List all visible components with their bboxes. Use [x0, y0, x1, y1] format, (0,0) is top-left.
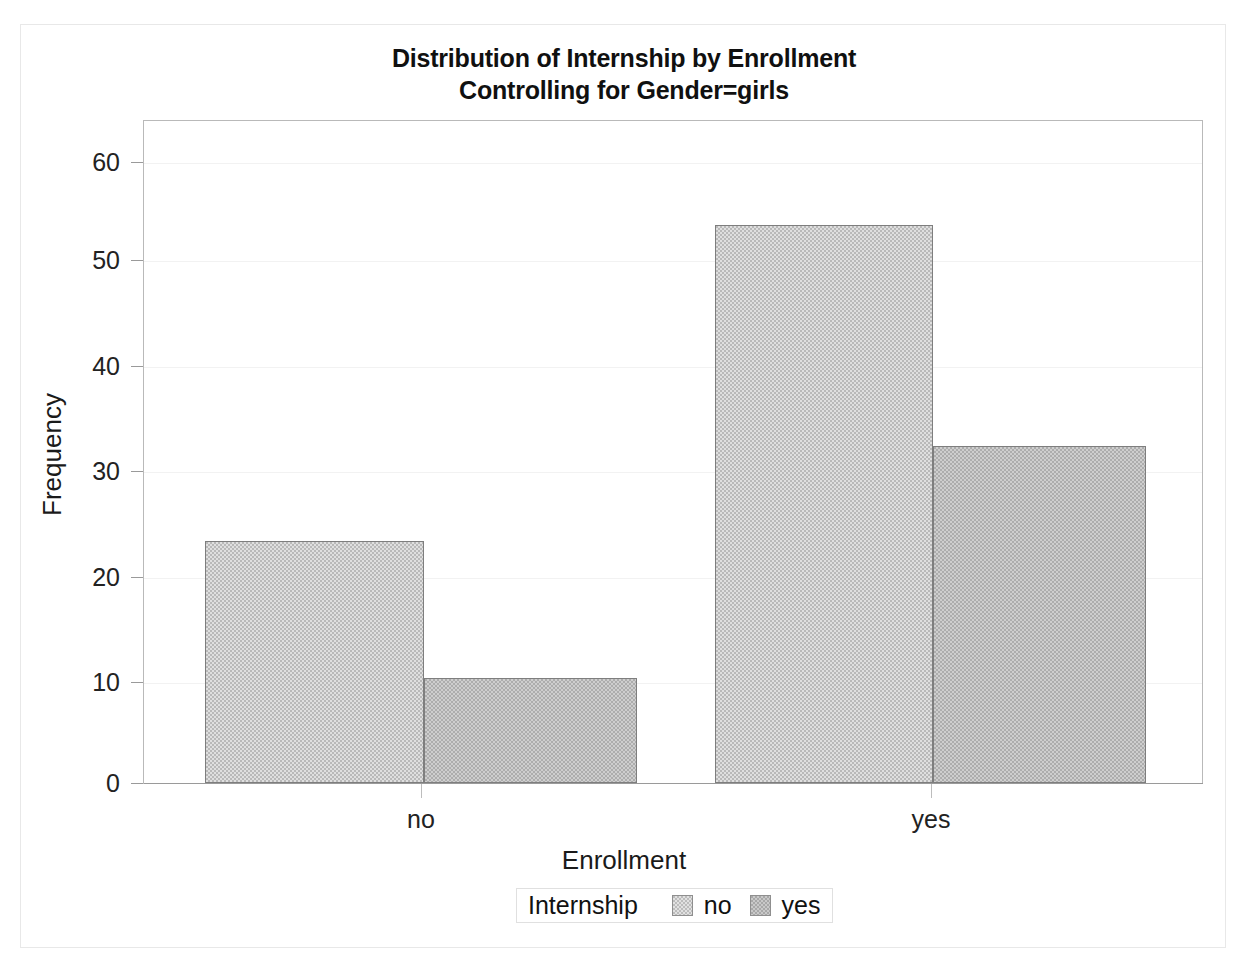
- bar-yes-yes[interactable]: [933, 446, 1146, 783]
- legend-title: Internship: [528, 891, 638, 920]
- legend-entry-no[interactable]: no: [672, 891, 732, 920]
- y-axis-title-text: Frequency: [37, 365, 68, 545]
- y-tick-50: [131, 260, 143, 261]
- legend: Internship no yes: [516, 888, 833, 923]
- chart-title: Distribution of Internship by Enrollment…: [0, 42, 1248, 106]
- y-axis-title: Frequency: [22, 330, 82, 580]
- y-tick-40: [131, 366, 143, 367]
- x-tick-label-no: no: [331, 805, 511, 834]
- legend-entry-yes[interactable]: yes: [750, 891, 821, 920]
- bar-no-no[interactable]: [205, 541, 424, 783]
- y-tick-label-10: 10: [92, 670, 120, 695]
- y-tick-30: [131, 471, 143, 472]
- legend-swatch-no-icon: [672, 895, 693, 916]
- y-axis-line: [143, 120, 144, 784]
- chart-title-line-1: Distribution of Internship by Enrollment: [0, 42, 1248, 74]
- x-tick-yes: [931, 784, 932, 798]
- bar-no-yes[interactable]: [424, 678, 637, 783]
- chart-title-line-2: Controlling for Gender=girls: [0, 74, 1248, 106]
- y-tick-0: [131, 783, 143, 784]
- y-tick-label-60: 60: [92, 150, 120, 175]
- legend-label-yes: yes: [782, 891, 821, 920]
- bars-layer: [143, 120, 1203, 783]
- y-tick-label-40: 40: [92, 354, 120, 379]
- legend-swatch-yes-icon: [750, 895, 771, 916]
- y-tick-label-30: 30: [92, 459, 120, 484]
- x-tick-label-yes: yes: [841, 805, 1021, 834]
- bar-yes-no[interactable]: [715, 225, 933, 783]
- y-tick-label-20: 20: [92, 565, 120, 590]
- y-tick-60: [131, 162, 143, 163]
- y-tick-label-50: 50: [92, 248, 120, 273]
- y-tick-10: [131, 682, 143, 683]
- x-axis-title: Enrollment: [0, 845, 1248, 876]
- y-tick-20: [131, 577, 143, 578]
- chart-page: Distribution of Internship by Enrollment…: [0, 0, 1248, 971]
- x-axis-line: [143, 783, 1203, 784]
- y-tick-label-0: 0: [106, 771, 120, 796]
- legend-label-no: no: [704, 891, 732, 920]
- x-tick-no: [421, 784, 422, 798]
